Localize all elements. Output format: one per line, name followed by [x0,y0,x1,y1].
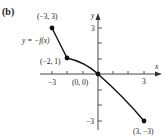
panel-label: (b) [2,6,14,18]
graph: (b) (−3, 3) y = −f(x) (−2, 1) (0, 0) (3,… [0,0,164,139]
y-tick-label-neg3: −3 [86,117,94,126]
x-axis [40,71,162,77]
y-axis-arrow-icon [96,13,101,20]
point-label-3-neg3: (3, −3) [133,127,154,136]
y-tick-label-3: 3 [91,24,95,33]
point-origin [96,72,101,77]
point-label-neg2-1: (−2, 1) [40,57,61,66]
function-label: y = −f(x) [21,36,50,45]
x-axis-label: x [154,62,159,71]
point-label-origin: (0, 0) [72,78,89,87]
point-neg2-1 [65,56,70,61]
point-neg3-3 [50,26,55,31]
y-axis [96,13,103,130]
point-3-neg3 [142,119,147,124]
x-axis-arrow-icon [155,72,162,77]
y-axis-label: y [90,11,95,20]
x-tick-label-3: 3 [142,77,146,86]
x-tick-label-neg3: −3 [48,78,56,87]
point-label-neg3-3: (−3, 3) [37,12,58,21]
